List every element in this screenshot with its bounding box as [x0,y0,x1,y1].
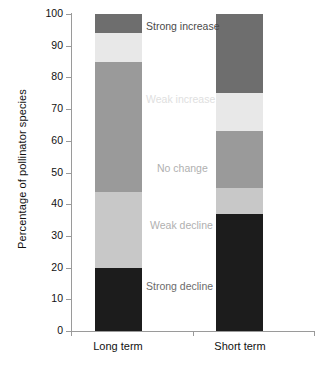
y-axis-tick [66,204,71,205]
y-axis-tick [66,109,71,110]
stacked-bar-chart: Percentage of pollinator species 0102030… [0,0,318,366]
y-axis-tick [66,299,71,300]
x-axis-tick-left [71,331,72,336]
bar-segment-weak-increase [216,93,263,131]
y-axis-tick [66,141,71,142]
x-axis-label-long-term: Long term [63,340,173,352]
y-axis-tick-label: 90 [23,39,63,51]
y-axis-tick-label: 10 [23,292,63,304]
bar-segment-weak-decline [216,188,263,213]
y-axis-tick [66,173,71,174]
y-axis-tick-label: 40 [23,197,63,209]
y-axis-tick-label: 100 [23,7,63,19]
y-axis-line [71,13,72,332]
annotation-weak-increase: Weak increase [146,93,215,105]
bar-segment-strong-increase [95,14,142,33]
annotation-strong-increase: Strong increase [146,20,220,32]
x-axis-label-short-term: Short term [185,340,295,352]
annotation-strong-decline: Strong decline [146,280,213,292]
bar-segment-strong-increase [216,14,263,93]
bar-segment-no-change [216,131,263,188]
x-axis-tick-mid [193,331,194,336]
y-axis-tick-label: 50 [23,166,63,178]
bar-short-term [216,0,263,366]
bar-segment-strong-decline [216,214,263,331]
annotation-weak-decline: Weak decline [150,219,213,231]
bar-long-term [95,0,142,366]
bar-segment-weak-decline [95,192,142,268]
y-axis-tick-label: 70 [23,102,63,114]
annotation-no-change: No change [157,162,208,174]
y-axis-tick [66,46,71,47]
y-axis-tick-label: 60 [23,134,63,146]
y-axis-tick [66,268,71,269]
y-axis-tick-label: 80 [23,70,63,82]
y-axis-tick [66,331,71,332]
bar-segment-strong-decline [95,268,142,331]
y-axis-tick [66,236,71,237]
y-axis-tick [66,77,71,78]
y-axis-tick-label: 30 [23,229,63,241]
y-axis-tick [66,14,71,15]
y-axis-tick-label: 20 [23,261,63,273]
y-axis-tick-label: 0 [23,324,63,336]
bar-segment-weak-increase [95,33,142,62]
x-axis-tick-right [314,331,315,336]
bar-segment-no-change [95,62,142,192]
